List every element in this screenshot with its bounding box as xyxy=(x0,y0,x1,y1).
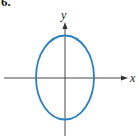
y-axis-arrow-icon xyxy=(63,22,68,29)
y-axis-label: y xyxy=(60,8,67,22)
ellipse-graph: x y xyxy=(0,0,138,136)
x-axis-label: x xyxy=(129,71,136,85)
x-axis-arrow-icon xyxy=(121,76,128,81)
